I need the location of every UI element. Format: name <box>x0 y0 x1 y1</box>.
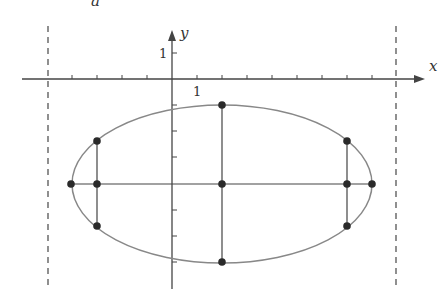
left-vertex-point <box>67 180 75 188</box>
y-unit-label: 1 <box>159 46 167 61</box>
x-axis-arrow-icon <box>414 75 425 83</box>
latus-left-bottom-point <box>93 222 101 230</box>
right-focus-point <box>343 180 351 188</box>
x-unit-label: 1 <box>193 84 201 99</box>
top-vertex-point <box>218 101 226 109</box>
y-axis-label: y <box>179 24 189 42</box>
x-axis: x 1 <box>22 57 438 99</box>
center-point <box>218 180 226 188</box>
bottom-vertex-point <box>218 258 226 266</box>
right-vertex-point <box>368 180 376 188</box>
latus-left-top-point <box>93 137 101 145</box>
x-axis-label: x <box>429 57 438 75</box>
y-axis: y 1 <box>159 24 189 289</box>
left-focus-point <box>93 180 101 188</box>
latus-right-bottom-point <box>343 222 351 230</box>
ellipse-diagram: a x 1 <box>0 0 448 299</box>
top-label: a <box>91 0 100 10</box>
latus-right-top-point <box>343 137 351 145</box>
y-axis-arrow-icon <box>168 30 176 41</box>
